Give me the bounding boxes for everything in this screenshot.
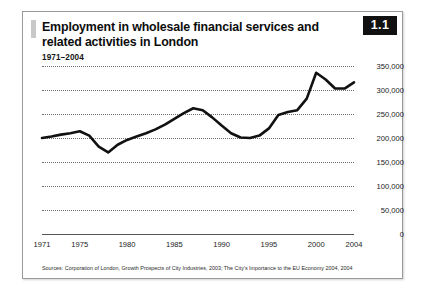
x-tick-label: 2004: [346, 240, 363, 249]
y-tick-label: 150,000: [358, 158, 404, 167]
y-tick-label: 250,000: [358, 110, 404, 119]
title-accent-rule: [31, 20, 36, 38]
y-tick-label: 0: [358, 230, 404, 239]
x-tick-label: 1995: [260, 240, 277, 249]
page-title: Employment in wholesale financial servic…: [42, 20, 332, 49]
source-note: Sources: Corporation of London, Growth P…: [42, 265, 392, 272]
chart-subtitle: 1971–2004: [42, 53, 84, 62]
x-tick-label: 1971: [34, 240, 51, 249]
y-tick-label: 350,000: [358, 62, 404, 71]
y-tick-label: 100,000: [358, 182, 404, 191]
x-tick-label: 1990: [213, 240, 230, 249]
gridline: [42, 234, 354, 235]
series-polyline: [42, 73, 354, 153]
figure-card: 1.1 Employment in wholesale financial se…: [22, 11, 403, 279]
series-line-chart: [42, 66, 354, 234]
x-tick-label: 1975: [71, 240, 88, 249]
y-tick-label: 300,000: [358, 86, 404, 95]
x-tick-label: 2000: [308, 240, 325, 249]
plot-area: 050,000100,000150,000200,000250,000300,0…: [42, 66, 354, 234]
x-axis-labels: 19711975198019851990199520002004: [42, 240, 354, 254]
x-tick-label: 1980: [119, 240, 136, 249]
x-tick-label: 1985: [166, 240, 183, 249]
y-tick-label: 200,000: [358, 134, 404, 143]
y-tick-label: 50,000: [358, 206, 404, 215]
figure-number-badge: 1.1: [363, 16, 397, 35]
